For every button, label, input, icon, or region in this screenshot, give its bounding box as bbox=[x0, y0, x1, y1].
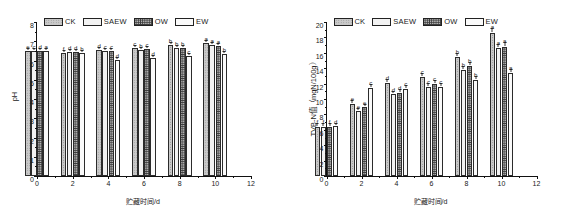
y-tick-minor bbox=[35, 147, 37, 148]
significance-letter: c bbox=[146, 42, 149, 48]
chart-panel-ph: CK SAEW OW EW pH ecdafddbdccdcbcdbbbcaaa… bbox=[0, 0, 286, 216]
x-tick-minor bbox=[344, 176, 345, 178]
bar-ck-day10: a bbox=[203, 43, 209, 176]
x-tick-mark bbox=[215, 176, 216, 179]
y-tick-minor bbox=[325, 30, 327, 31]
significance-letter: a bbox=[217, 39, 220, 45]
bar-ck-day8: b bbox=[455, 57, 461, 176]
bar-saew-day6: b bbox=[138, 50, 144, 176]
bar-saew-day2: d bbox=[67, 52, 73, 176]
significance-letter: d bbox=[74, 45, 77, 51]
y-tick-mark bbox=[324, 161, 327, 162]
significance-letter: c bbox=[104, 44, 107, 50]
x-tick-label: 4 bbox=[395, 180, 399, 187]
x-tick-label: 10 bbox=[498, 180, 506, 187]
significance-letter: d bbox=[398, 85, 401, 91]
x-tick-mark bbox=[537, 176, 538, 179]
y-tick-mark bbox=[34, 99, 37, 100]
x-tick-minor bbox=[198, 176, 199, 178]
significance-letter: a bbox=[211, 38, 214, 44]
y-tick-mark bbox=[324, 145, 327, 146]
significance-letter: b bbox=[169, 38, 172, 44]
x-tick-mark bbox=[397, 176, 398, 179]
x-tick-label: 12 bbox=[247, 180, 255, 187]
significance-letter: d bbox=[98, 43, 101, 49]
x-axis-label-ph: 贮藏时间/d bbox=[126, 196, 160, 206]
y-tick-minor bbox=[35, 109, 37, 110]
significance-letter: b bbox=[468, 58, 471, 64]
y-tick-minor bbox=[35, 70, 37, 71]
bar-saew-day4: c bbox=[102, 51, 108, 177]
significance-letter: d bbox=[334, 119, 337, 125]
legend-swatch-saew bbox=[372, 18, 391, 26]
significance-letter: b bbox=[223, 47, 226, 53]
y-tick-mark bbox=[34, 80, 37, 81]
x-tick-mark bbox=[180, 176, 181, 179]
y-axis-label-ph: pH bbox=[10, 67, 19, 127]
significance-letter: d bbox=[386, 75, 389, 81]
y-tick-mark bbox=[34, 118, 37, 119]
legend-label-ew: EW bbox=[196, 18, 208, 26]
significance-letter: a bbox=[509, 65, 512, 71]
bar-ow-day0: d bbox=[37, 51, 43, 177]
legend-label-saew: SAEW bbox=[393, 18, 416, 26]
bar-ow-day4: c bbox=[109, 51, 115, 176]
x-tick-label: 10 bbox=[211, 180, 219, 187]
bar-ow-day2: d bbox=[73, 52, 79, 176]
legend-swatch-ck bbox=[334, 18, 353, 26]
y-tick-minor bbox=[325, 45, 327, 46]
bar-ew-day8: c bbox=[186, 56, 192, 176]
x-tick-mark bbox=[327, 176, 328, 179]
x-tick-mark bbox=[362, 176, 363, 179]
significance-letter: d bbox=[68, 45, 71, 51]
y-tick-minor bbox=[35, 32, 37, 33]
legend-tvbn: CK SAEW OW EW bbox=[334, 18, 503, 26]
x-tick-minor bbox=[519, 176, 520, 178]
legend-swatch-ck bbox=[44, 18, 63, 26]
bar-ew-day4: d bbox=[115, 60, 121, 176]
x-tick-label: 8 bbox=[178, 180, 182, 187]
bar-ck-day6: c bbox=[132, 48, 138, 176]
bar-saew-day8: b bbox=[174, 48, 180, 176]
bar-ow-day6: c bbox=[144, 49, 150, 176]
significance-letter: e bbox=[357, 104, 360, 110]
significance-letter: a bbox=[497, 40, 500, 46]
significance-letter: a bbox=[503, 38, 506, 44]
bar-ow-day8: b bbox=[467, 66, 473, 176]
x-tick-label: 6 bbox=[430, 180, 434, 187]
legend-item-ck: CK bbox=[44, 18, 76, 26]
x-tick-minor bbox=[162, 176, 163, 178]
bar-ow-day0: f bbox=[327, 127, 333, 176]
significance-letter: e bbox=[351, 96, 354, 102]
x-tick-mark bbox=[467, 176, 468, 179]
bar-saew-day4: d bbox=[391, 94, 397, 176]
legend-item-saew: SAEW bbox=[372, 18, 416, 26]
x-tick-mark bbox=[251, 176, 252, 179]
x-tick-label: 2 bbox=[71, 180, 75, 187]
significance-letter: b bbox=[139, 43, 142, 49]
bar-ck-day10: a bbox=[490, 33, 496, 176]
significance-letter: c bbox=[110, 44, 113, 50]
legend-label-saew: SAEW bbox=[104, 18, 127, 26]
significance-letter: d bbox=[151, 51, 154, 57]
x-tick-minor bbox=[126, 176, 127, 178]
significance-letter: b bbox=[456, 49, 459, 55]
significance-letter: b bbox=[462, 62, 465, 68]
y-tick-mark bbox=[324, 99, 327, 100]
legend-item-ow: OW bbox=[423, 18, 457, 26]
significance-letter: e bbox=[26, 44, 29, 50]
significance-letter: c bbox=[369, 80, 372, 86]
bar-saew-day10: a bbox=[496, 48, 502, 176]
y-tick-mark bbox=[34, 22, 37, 23]
y-tick-minor bbox=[325, 61, 327, 62]
legend-label-ck: CK bbox=[355, 18, 366, 26]
bar-ow-day4: d bbox=[397, 93, 403, 176]
significance-letter: c bbox=[187, 49, 190, 55]
y-tick-mark bbox=[324, 53, 327, 54]
legend-item-ew: EW bbox=[175, 18, 208, 26]
legend-item-ck: CK bbox=[334, 18, 366, 26]
y-tick-mark bbox=[324, 22, 327, 23]
x-tick-mark bbox=[108, 176, 109, 179]
plot-area-tvbn: fffdeeecdddcccccbbbbaaaa 024681012141618… bbox=[326, 22, 537, 177]
bar-ew-day2: c bbox=[368, 88, 374, 176]
